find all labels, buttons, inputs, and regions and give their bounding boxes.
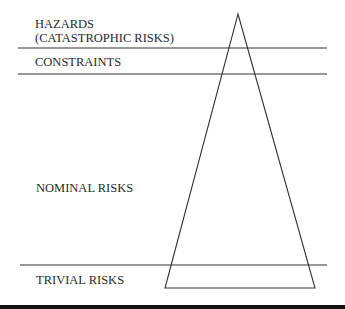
bottom-rule (0, 305, 345, 309)
label-hazards-line1: HAZARDS (35, 17, 174, 31)
label-trivial-risks: TRIVIAL RISKS (36, 273, 124, 287)
label-constraints: CONSTRAINTS (35, 55, 121, 69)
label-hazards: HAZARDS (CATASTROPHIC RISKS) (35, 17, 174, 45)
label-hazards-line2: (CATASTROPHIC RISKS) (35, 31, 174, 45)
risk-triangle-shape (165, 14, 315, 288)
risk-diagram: HAZARDS (CATASTROPHIC RISKS) CONSTRAINTS… (0, 0, 345, 309)
diagram-graphics (0, 0, 345, 309)
label-nominal-risks: NOMINAL RISKS (36, 181, 133, 195)
